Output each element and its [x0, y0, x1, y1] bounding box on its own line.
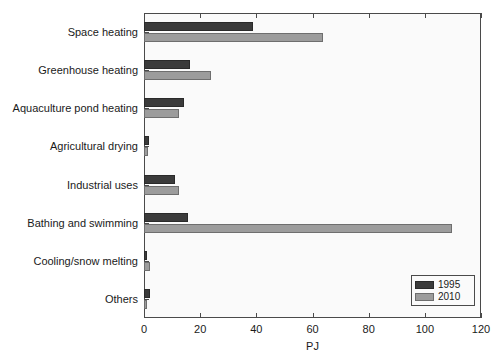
bar-2010 [144, 71, 211, 80]
bar-chart-figure: Space heatingGreenhouse heatingAquacultu… [0, 0, 504, 360]
chart-legend: 1995 2010 [411, 275, 475, 306]
bar-1995 [144, 213, 188, 222]
y-axis-tick [144, 261, 149, 262]
category-label: Industrial uses [0, 179, 138, 191]
x-axis-tick [425, 313, 426, 318]
x-axis-tick-label: 60 [306, 323, 318, 335]
bar-2010 [144, 300, 147, 309]
y-axis-tick [144, 223, 149, 224]
bar-group [144, 13, 481, 51]
legend-swatch-2010 [415, 293, 434, 301]
x-axis-tick-label: 40 [250, 323, 262, 335]
x-axis-tick-label: 0 [141, 323, 147, 335]
bar-group [144, 89, 481, 127]
legend-swatch-1995 [415, 281, 434, 289]
bar-group [144, 166, 481, 204]
x-axis-tick-top [256, 13, 257, 18]
y-axis-tick [144, 108, 149, 109]
x-axis-tick-top [425, 13, 426, 18]
bar-1995 [144, 60, 190, 69]
x-axis-tick-top [369, 13, 370, 18]
y-axis-tick [144, 299, 149, 300]
x-axis-tick-label: 80 [363, 323, 375, 335]
bar-2010 [144, 147, 148, 156]
x-axis-tick-top [313, 13, 314, 18]
y-axis-tick [144, 146, 149, 147]
legend-item-1995: 1995 [415, 279, 471, 290]
category-label: Bathing and swimming [0, 217, 138, 229]
y-axis-tick [144, 185, 149, 186]
category-label: Greenhouse heating [0, 64, 138, 76]
bar-1995 [144, 136, 149, 145]
x-axis-tick [313, 313, 314, 318]
x-axis-tick [369, 313, 370, 318]
bar-1995 [144, 251, 147, 260]
bar-2010 [144, 262, 150, 271]
bar-group [144, 204, 481, 242]
x-axis-title: PJ [306, 340, 319, 352]
x-axis-tick-label: 20 [194, 323, 206, 335]
bar-group [144, 51, 481, 89]
x-axis-tick-top [200, 13, 201, 18]
bar-2010 [144, 109, 179, 118]
category-label: Aquaculture pond heating [0, 102, 138, 114]
x-axis-tick-top [481, 13, 482, 18]
x-axis-tick-top [144, 13, 145, 18]
legend-item-2010: 2010 [415, 291, 471, 302]
bar-group [144, 127, 481, 165]
x-axis-tick-label: 120 [472, 323, 490, 335]
bar-1995 [144, 289, 150, 298]
category-label: Others [0, 293, 138, 305]
x-axis-tick [256, 313, 257, 318]
category-label: Agricultural drying [0, 140, 138, 152]
legend-label-1995: 1995 [438, 280, 460, 290]
category-label: Space heating [0, 26, 138, 38]
y-axis-tick [144, 70, 149, 71]
bar-1995 [144, 22, 253, 31]
bar-2010 [144, 224, 452, 233]
category-label: Cooling/snow melting [0, 255, 138, 267]
y-axis-tick [144, 32, 149, 33]
bar-2010 [144, 33, 323, 42]
x-axis-tick [144, 313, 145, 318]
x-axis-tick-label: 100 [416, 323, 434, 335]
x-axis-tick [200, 313, 201, 318]
bar-2010 [144, 186, 179, 195]
x-axis-tick [481, 313, 482, 318]
legend-label-2010: 2010 [438, 292, 460, 302]
bar-1995 [144, 98, 184, 107]
bar-1995 [144, 175, 175, 184]
